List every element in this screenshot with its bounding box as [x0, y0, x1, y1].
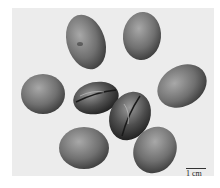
seed-bottom-left — [59, 127, 109, 169]
seeds-illustration — [12, 8, 214, 176]
seed-photograph — [12, 8, 214, 176]
seed-middle-right — [149, 56, 214, 117]
seed-top-left — [59, 9, 112, 74]
scale-bar-label: 1 cm — [186, 170, 202, 178]
seed-top-right — [121, 10, 163, 61]
seed-middle-left — [21, 74, 65, 114]
